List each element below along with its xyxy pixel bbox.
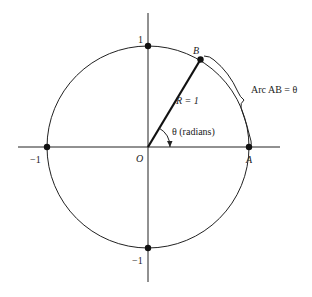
label-top: 1 (138, 34, 143, 45)
label-bottom: −1 (132, 255, 143, 266)
label-arc: Arc AB = θ (251, 84, 297, 95)
angle-arrowhead (167, 141, 173, 147)
point-bottom (145, 245, 151, 251)
point-b (197, 56, 203, 62)
label-b: B (193, 45, 199, 56)
label-origin: O (136, 153, 143, 164)
unit-circle-diagram: 1 B R = 1 θ (radians) Arc AB = θ −1 O A … (0, 0, 312, 297)
label-a: A (245, 154, 253, 165)
label-left: −1 (30, 154, 41, 165)
point-left (44, 144, 50, 150)
point-a (246, 144, 252, 150)
label-radius: R = 1 (175, 95, 199, 106)
label-angle: θ (radians) (172, 126, 215, 138)
point-top (145, 43, 151, 49)
angle-arc (159, 128, 170, 147)
